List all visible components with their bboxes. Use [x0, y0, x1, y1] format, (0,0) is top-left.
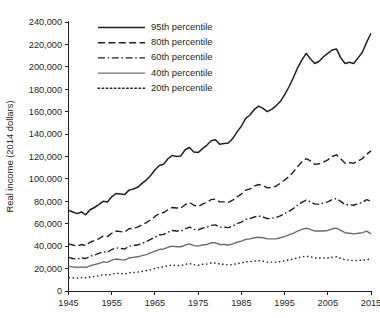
y-tick-label: 200,000 [29, 62, 62, 72]
chart-canvas: 020,00040,00060,00080,000100,000120,0001… [0, 0, 380, 318]
y-tick-label: 240,000 [29, 17, 62, 27]
x-tick-label: 2005 [318, 298, 338, 308]
series-line-40th-percentile [69, 228, 372, 267]
legend-label-95th-percentile: 95th percentile [151, 21, 213, 32]
y-axis-group: 020,00040,00060,00080,000100,000120,0001… [29, 17, 69, 296]
series-line-95th-percentile [69, 33, 372, 215]
y-tick-label: 220,000 [29, 40, 62, 50]
x-tick-label: 1975 [188, 298, 208, 308]
x-tick-label: 1995 [274, 298, 294, 308]
legend-label-60th-percentile: 60th percentile [151, 51, 213, 62]
series-line-80th-percentile [69, 151, 372, 246]
x-tick-label: 1985 [231, 298, 251, 308]
x-tick-label: 1945 [58, 298, 78, 308]
x-tick-label: 1965 [145, 298, 165, 308]
y-tick-label: 40,000 [34, 241, 62, 251]
x-axis-ticks: 19451955196519751985199520052015 [58, 291, 380, 308]
y-tick-label: 60,000 [34, 219, 62, 229]
y-tick-label: 160,000 [29, 107, 62, 117]
legend-label-40th-percentile: 40th percentile [151, 67, 213, 78]
y-tick-label: 20,000 [34, 264, 62, 274]
x-axis-group: 19451955196519751985199520052015 [58, 291, 380, 308]
x-tick-label: 2015 [361, 298, 380, 308]
series-line-60th-percentile [69, 199, 372, 260]
y-tick-label: 140,000 [29, 129, 62, 139]
y-axis-ticks: 020,00040,00060,00080,000100,000120,0001… [29, 17, 69, 296]
y-tick-label: 180,000 [29, 85, 62, 95]
legend-label-20th-percentile: 20th percentile [151, 82, 213, 93]
income-percentile-chart: 020,00040,00060,00080,000100,000120,0001… [0, 0, 380, 318]
chart-legend: 95th percentile80th percentile60th perce… [98, 21, 213, 93]
data-series-group [69, 33, 372, 278]
x-tick-label: 1955 [101, 298, 121, 308]
y-tick-label: 100,000 [29, 174, 62, 184]
y-tick-label: 120,000 [29, 152, 62, 162]
y-axis-title: Real income (2014 dollars) [4, 100, 15, 212]
legend-label-80th-percentile: 80th percentile [151, 36, 213, 47]
y-tick-label: 80,000 [34, 197, 62, 207]
y-tick-label: 0 [57, 286, 62, 296]
